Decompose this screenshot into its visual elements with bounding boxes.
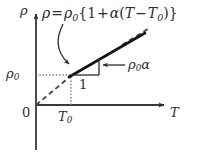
y-tick-label-rho0: ρ0 [6, 67, 19, 82]
x-tick-subscript: 0 [67, 115, 73, 125]
equation-one: 1 [87, 5, 96, 21]
x-axis-label: T [170, 106, 179, 119]
equation-callout-arrow [58, 24, 69, 64]
x-tick-base: T [58, 109, 67, 124]
equation-label: ρ=ρ0{1+α(T−T0)} [42, 6, 178, 22]
x-tick-label-t0: T0 [58, 110, 72, 125]
equation-plus: + [96, 5, 110, 21]
equation-minus: − [134, 5, 148, 21]
resistivity-temperature-figure: ρ=ρ0{1+α(T−T0)} ρ T 0 ρ0 T0 1 ρ0α [0, 0, 197, 156]
slope-rise-base: ρ [128, 57, 136, 72]
equation-equals: = [50, 5, 64, 21]
y-tick-subscript: 0 [14, 72, 20, 82]
figure-canvas [0, 0, 197, 156]
equation-lhs: ρ [42, 5, 50, 21]
equation-close-brace: } [169, 5, 178, 21]
equation-t: T [125, 5, 134, 21]
slope-rise-label: ρ0α [128, 58, 150, 73]
slope-rise-alpha: α [141, 57, 150, 72]
origin-label: 0 [22, 106, 30, 119]
y-axis-label: ρ [20, 4, 28, 17]
slope-run-label: 1 [79, 78, 87, 91]
extrapolation-dashed-line [36, 75, 72, 105]
equation-t0: T [148, 5, 157, 21]
y-tick-base: ρ [6, 66, 14, 81]
equation-rho: ρ [64, 5, 72, 21]
equation-open-brace: { [78, 5, 87, 21]
equation-alpha: α [110, 5, 119, 21]
